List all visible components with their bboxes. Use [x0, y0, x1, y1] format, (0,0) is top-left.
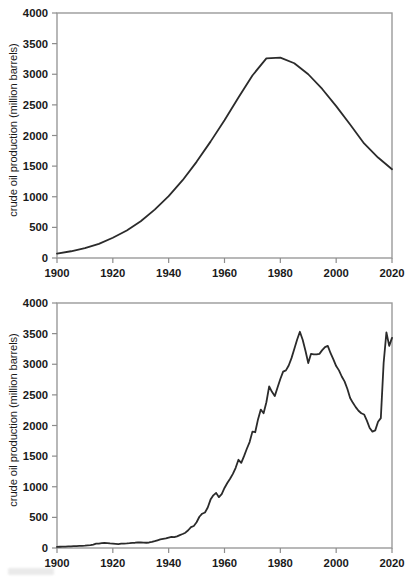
- top-chart-x-tick-label: 1920: [100, 267, 125, 279]
- top-chart-x-tick-label: 1940: [156, 267, 181, 279]
- bottom-chart-series-line: [57, 332, 392, 547]
- bottom-chart-x-tick-label: 2000: [324, 557, 349, 569]
- top-chart-y-tick-label: 2000: [23, 130, 48, 142]
- top-chart-x-tick-label: 2020: [379, 267, 404, 279]
- figure-bottom-chart: crude oil production (million barrels) 0…: [0, 290, 415, 580]
- top-chart-plot-area: 0500100015002000250030003500400019001920…: [0, 0, 415, 290]
- top-chart-y-tick-label: 1000: [23, 191, 48, 203]
- bottom-chart-y-tick-label: 2000: [23, 420, 48, 432]
- figure-top-chart: crude oil production (million barrels) 0…: [0, 0, 415, 290]
- top-chart-x-tick-label: 1960: [212, 267, 237, 279]
- bottom-chart-x-tick-label: 1940: [156, 557, 181, 569]
- bottom-chart-y-tick-label: 1500: [23, 450, 48, 462]
- top-chart-y-tick-label: 500: [29, 221, 48, 233]
- bottom-chart-x-tick-label: 2020: [379, 557, 404, 569]
- bottom-chart-y-tick-label: 2500: [23, 389, 48, 401]
- bottom-chart-y-tick-label: 1000: [23, 481, 48, 493]
- bottom-chart-x-tick-label: 1960: [212, 557, 237, 569]
- top-chart-y-tick-label: 4000: [23, 7, 48, 19]
- top-chart-y-tick-label: 3000: [23, 68, 48, 80]
- top-chart-y-tick-label: 0: [42, 252, 48, 264]
- top-chart-x-tick-label: 1900: [44, 267, 69, 279]
- top-chart-series-line: [57, 58, 392, 254]
- top-chart-x-tick-label: 2000: [324, 267, 349, 279]
- bottom-chart-x-tick-label: 1980: [268, 557, 293, 569]
- top-chart-svg: 0500100015002000250030003500400019001920…: [0, 0, 415, 290]
- bottom-chart-svg: 0500100015002000250030003500400019001920…: [0, 290, 415, 580]
- bottom-chart-plot-area: 0500100015002000250030003500400019001920…: [0, 290, 415, 580]
- bottom-chart-y-tick-label: 500: [29, 511, 48, 523]
- scan-artifact: [8, 568, 54, 575]
- bottom-chart-y-tick-label: 3000: [23, 358, 48, 370]
- bottom-chart-frame: [57, 303, 392, 548]
- top-chart-y-tick-label: 2500: [23, 99, 48, 111]
- top-chart-y-tick-label: 3500: [23, 38, 48, 50]
- bottom-chart-x-tick-label: 1920: [100, 557, 125, 569]
- top-chart-frame: [57, 13, 392, 258]
- bottom-chart-y-tick-label: 3500: [23, 328, 48, 340]
- bottom-chart-y-tick-label: 4000: [23, 297, 48, 309]
- top-chart-y-tick-label: 1500: [23, 160, 48, 172]
- bottom-chart-y-tick-label: 0: [42, 542, 48, 554]
- top-chart-x-tick-label: 1980: [268, 267, 293, 279]
